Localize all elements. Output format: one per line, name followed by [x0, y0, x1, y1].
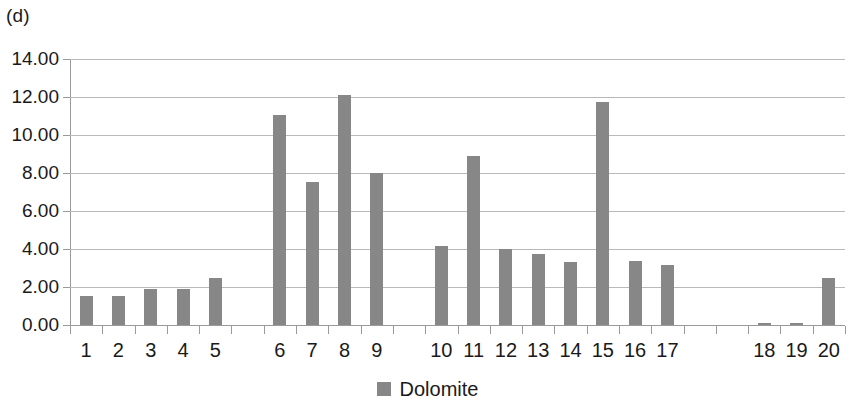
- x-tick: [393, 326, 394, 334]
- y-tick-label-14.00: 14.00: [0, 49, 59, 68]
- x-tick-label-3: 3: [135, 338, 167, 362]
- x-tick: [231, 326, 232, 334]
- x-tick-label-13: 13: [522, 338, 554, 362]
- bar-18: [758, 323, 771, 325]
- x-tick-label-16: 16: [619, 338, 651, 362]
- y-tick-label-8.00: 8.00: [0, 163, 59, 182]
- x-tick: [813, 326, 814, 334]
- x-tick-label-17: 17: [651, 338, 683, 362]
- bar-3: [144, 289, 157, 325]
- legend-label-dolomite: Dolomite: [400, 378, 479, 400]
- bar-7: [306, 182, 319, 325]
- x-tick: [199, 326, 200, 334]
- bar-10: [435, 246, 448, 325]
- legend-swatch-dolomite: [377, 382, 391, 396]
- gridline-6.00: [70, 211, 845, 212]
- y-tick-label-0.00: 0.00: [0, 315, 59, 334]
- x-tick: [264, 326, 265, 334]
- plot-area: [70, 59, 845, 325]
- x-tick: [780, 326, 781, 334]
- chart-legend: Dolomite: [0, 378, 855, 400]
- gridline-4.00: [70, 249, 845, 250]
- x-tick: [716, 326, 717, 334]
- x-tick-label-18: 18: [748, 338, 780, 362]
- y-tick-0.00: [63, 325, 70, 326]
- bar-2: [112, 296, 125, 325]
- y-tick-label-10.00: 10.00: [0, 125, 59, 144]
- bar-5: [209, 278, 222, 325]
- y-tick-2.00: [63, 287, 70, 288]
- x-tick-label-2: 2: [102, 338, 134, 362]
- x-tick: [361, 326, 362, 334]
- x-tick: [684, 326, 685, 334]
- y-tick-12.00: [63, 97, 70, 98]
- bar-9: [370, 173, 383, 325]
- x-tick-label-20: 20: [813, 338, 845, 362]
- x-tick-label-5: 5: [199, 338, 231, 362]
- x-tick-label-19: 19: [780, 338, 812, 362]
- bar-16: [629, 261, 642, 325]
- y-tick-label-12.00: 12.00: [0, 87, 59, 106]
- x-tick: [102, 326, 103, 334]
- gridline-8.00: [70, 173, 845, 174]
- bar-17: [661, 265, 674, 325]
- y-tick-label-2.00: 2.00: [0, 277, 59, 296]
- x-tick: [619, 326, 620, 334]
- bar-20: [822, 278, 835, 326]
- bar-14: [564, 262, 577, 325]
- x-tick: [296, 326, 297, 334]
- x-tick: [70, 326, 71, 334]
- gridline-10.00: [70, 135, 845, 136]
- x-tick-label-11: 11: [458, 338, 490, 362]
- x-tick: [425, 326, 426, 334]
- x-tick-label-1: 1: [70, 338, 102, 362]
- x-tick-label-7: 7: [296, 338, 328, 362]
- x-tick: [458, 326, 459, 334]
- chart-figure: (d) 0.002.004.006.008.0010.0012.0014.00 …: [0, 0, 855, 410]
- bar-6: [273, 115, 286, 325]
- x-tick: [328, 326, 329, 334]
- bar-15: [596, 102, 609, 325]
- x-tick-label-12: 12: [490, 338, 522, 362]
- x-tick-label-14: 14: [554, 338, 586, 362]
- x-tick: [554, 326, 555, 334]
- gridline-12.00: [70, 97, 845, 98]
- bar-12: [499, 249, 512, 325]
- x-tick: [845, 326, 846, 334]
- bar-13: [532, 254, 545, 325]
- x-tick: [651, 326, 652, 334]
- x-tick-label-6: 6: [264, 338, 296, 362]
- bar-1: [80, 296, 93, 325]
- bar-4: [177, 289, 190, 325]
- y-tick-label-4.00: 4.00: [0, 239, 59, 258]
- x-tick-label-8: 8: [328, 338, 360, 362]
- x-tick-label-15: 15: [587, 338, 619, 362]
- x-tick: [587, 326, 588, 334]
- y-tick-14.00: [63, 59, 70, 60]
- x-tick-label-10: 10: [425, 338, 457, 362]
- x-tick-label-4: 4: [167, 338, 199, 362]
- x-tick: [522, 326, 523, 334]
- x-tick: [748, 326, 749, 334]
- y-tick-4.00: [63, 249, 70, 250]
- y-tick-8.00: [63, 173, 70, 174]
- y-tick-label-6.00: 6.00: [0, 201, 59, 220]
- x-tick: [135, 326, 136, 334]
- x-tick: [167, 326, 168, 334]
- bar-19: [790, 323, 803, 325]
- panel-label: (d): [6, 5, 30, 27]
- y-tick-6.00: [63, 211, 70, 212]
- x-tick: [490, 326, 491, 334]
- bar-8: [338, 95, 351, 325]
- gridline-2.00: [70, 287, 845, 288]
- x-tick-label-9: 9: [361, 338, 393, 362]
- y-tick-10.00: [63, 135, 70, 136]
- gridline-14.00: [70, 59, 845, 60]
- bar-11: [467, 156, 480, 325]
